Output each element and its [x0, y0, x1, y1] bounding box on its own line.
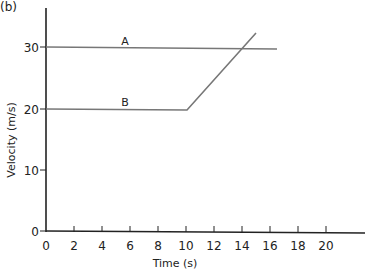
panel-label: (b) [0, 0, 17, 14]
x-axis [46, 231, 365, 233]
svg-text:0: 0 [31, 225, 39, 239]
svg-text:12: 12 [206, 239, 221, 253]
series-b-label: B [121, 96, 129, 109]
svg-text:2: 2 [70, 239, 78, 253]
svg-text:0: 0 [42, 239, 50, 253]
x-tick-labels: 0 2 4 6 8 10 12 14 16 18 20 [42, 239, 333, 253]
svg-text:10: 10 [178, 239, 193, 253]
svg-text:30: 30 [24, 41, 39, 55]
svg-text:20: 20 [24, 103, 39, 117]
series-b-line [46, 33, 256, 110]
svg-text:14: 14 [234, 239, 249, 253]
velocity-time-chart: 30 20 10 0 0 2 4 6 8 10 12 14 16 18 20 T… [0, 0, 365, 271]
svg-text:6: 6 [126, 239, 134, 253]
series-a-label: A [121, 35, 129, 48]
x-axis-label: Time (s) [152, 257, 198, 270]
y-axis-label: Velocity (m/s) [5, 102, 18, 177]
svg-text:4: 4 [98, 239, 106, 253]
y-ticks [40, 47, 46, 231]
svg-text:18: 18 [290, 239, 305, 253]
svg-text:10: 10 [24, 164, 39, 178]
svg-text:20: 20 [318, 239, 333, 253]
svg-text:16: 16 [262, 239, 277, 253]
y-tick-labels: 30 20 10 0 [24, 41, 39, 239]
svg-text:8: 8 [154, 239, 162, 253]
